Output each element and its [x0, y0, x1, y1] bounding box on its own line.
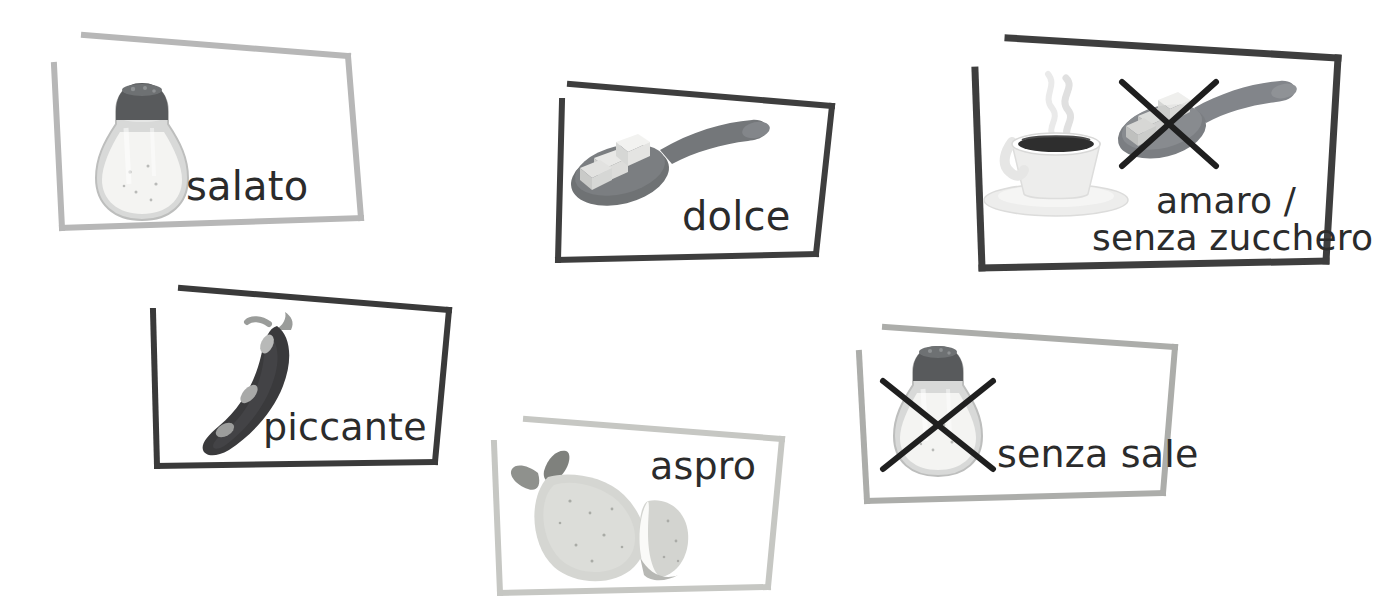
card-label-amaro-line2: senza zucchero: [1092, 218, 1373, 258]
flashcard-salato[interactable]: salato: [18, 22, 378, 262]
flashcard-dolce[interactable]: dolce: [540, 62, 860, 277]
card-label-salato: salato: [186, 164, 308, 209]
card-label-aspro: aspro: [650, 445, 756, 488]
card-label-senza-sale: senza sale: [997, 433, 1199, 476]
flashcard-piccante[interactable]: piccante: [145, 278, 475, 478]
flashcard-amaro-senza-zucchero[interactable]: amaro / senza zucchero: [960, 26, 1360, 286]
card-label-amaro-line1: amaro /: [1156, 181, 1296, 221]
card-label-dolce: dolce: [682, 194, 791, 239]
flashcard-aspro[interactable]: aspro: [472, 405, 802, 615]
card-label-piccante: piccante: [263, 406, 427, 449]
flashcard-board: salato: [0, 0, 1376, 615]
flashcard-senza-sale[interactable]: senza sale: [845, 315, 1195, 520]
